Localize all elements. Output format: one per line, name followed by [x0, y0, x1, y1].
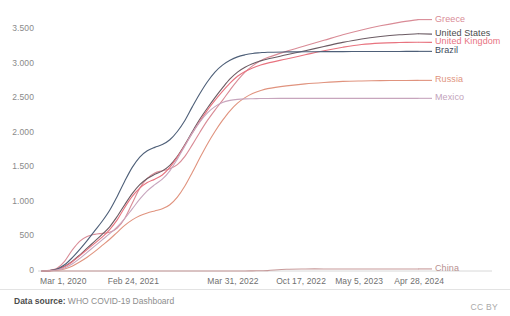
x-tick-label: Apr 28, 2024 — [394, 276, 444, 286]
series-line — [42, 98, 418, 271]
data-source-prefix: Data source: — [14, 296, 66, 306]
x-tick-label: Oct 17, 2022 — [276, 276, 326, 286]
x-tick-label: Mar 1, 2020 — [40, 276, 86, 286]
x-tick-label: May 5, 2023 — [335, 276, 383, 286]
y-tick-label: 1.500 — [0, 161, 34, 171]
data-source-name: WHO COVID-19 Dashboard — [66, 296, 175, 306]
series-line — [42, 42, 418, 271]
data-source-note: Data source: WHO COVID-19 Dashboard — [14, 296, 174, 306]
covid-cumulative-cases-chart: 05001.0001.5002.0002.5003.0003.500 Mar 1… — [0, 0, 510, 316]
y-tick-label: 3.000 — [0, 58, 34, 68]
chart-footer: Data source: WHO COVID-19 Dashboard CC B… — [0, 289, 510, 316]
x-tick-label: Feb 24, 2021 — [108, 276, 159, 286]
series-label-greece[interactable]: Greece — [435, 14, 465, 24]
y-tick-label: 0 — [0, 265, 34, 275]
y-tick-label: 2.000 — [0, 127, 34, 137]
y-tick-label: 3.500 — [0, 23, 34, 33]
series-label-brazil[interactable]: Brazil — [435, 45, 458, 55]
series-label-mexico[interactable]: Mexico — [435, 92, 464, 102]
y-tick-label: 500 — [0, 230, 34, 240]
x-tick-label: Mar 31, 2022 — [207, 276, 258, 286]
series-line — [42, 34, 418, 271]
series-label-china[interactable]: China — [435, 263, 459, 273]
y-tick-label: 1.000 — [0, 196, 34, 206]
series-line — [42, 20, 418, 271]
y-tick-label: 2.500 — [0, 92, 34, 102]
series-label-russia[interactable]: Russia — [435, 74, 463, 84]
series-lines-group — [42, 20, 432, 271]
chart-plot-area — [0, 0, 510, 316]
license-note: CC BY — [471, 302, 498, 312]
